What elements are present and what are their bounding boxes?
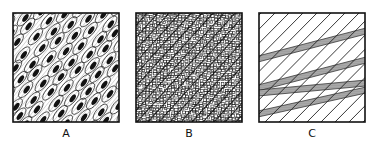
panel-b-label: B xyxy=(135,127,243,140)
panel-c-label: C xyxy=(258,127,366,140)
panel-a xyxy=(12,12,120,123)
texture-b xyxy=(135,12,243,123)
panel-b xyxy=(135,12,243,123)
panel-a-label: A xyxy=(12,127,120,140)
panel-c xyxy=(258,12,366,123)
texture-c xyxy=(258,12,366,123)
texture-a xyxy=(12,12,120,123)
